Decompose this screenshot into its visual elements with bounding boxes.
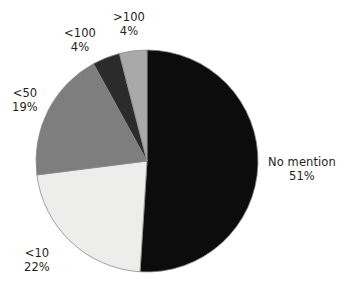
pie-label-lt100-value: 4%	[64, 40, 96, 54]
pie-slice-no-mention[interactable]	[140, 50, 258, 272]
pie-label-lt50-value: 19%	[12, 100, 38, 114]
pie-label-gt100: >100 4%	[113, 10, 145, 38]
pie-label-lt10-text: <10	[24, 246, 50, 260]
pie-slices	[36, 50, 258, 272]
pie-label-lt100-text: <100	[64, 26, 96, 40]
pie-label-lt100: <100 4%	[64, 26, 96, 54]
pie-label-lt50: <50 19%	[12, 86, 38, 114]
pie-label-no-mention-text: No mention	[268, 155, 336, 169]
pie-label-gt100-text: >100	[113, 10, 145, 24]
pie-slice-lt10[interactable]	[37, 161, 147, 272]
pie-label-no-mention-value: 51%	[268, 169, 336, 183]
pie-chart: No mention 51% <10 22% <50 19% <100 4% >…	[0, 0, 349, 296]
pie-label-gt100-value: 4%	[113, 24, 145, 38]
pie-chart-canvas	[0, 0, 349, 296]
pie-label-lt50-text: <50	[12, 86, 38, 100]
pie-label-lt10-value: 22%	[24, 260, 50, 274]
pie-label-no-mention: No mention 51%	[268, 155, 336, 183]
pie-label-lt10: <10 22%	[24, 246, 50, 274]
